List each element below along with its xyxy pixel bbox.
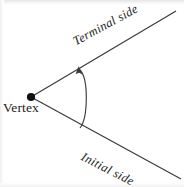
rotation-arc	[80, 70, 87, 129]
terminal-side-ray	[31, 11, 176, 97]
initial-side-ray	[31, 97, 181, 179]
angle-figure: Vertex Terminal side Initial side	[0, 0, 184, 187]
vertex-dot-icon	[27, 93, 35, 101]
angle-diagram-svg	[0, 0, 184, 187]
